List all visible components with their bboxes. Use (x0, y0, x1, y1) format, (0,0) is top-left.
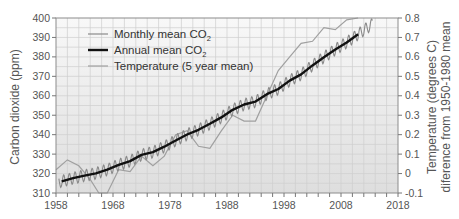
y-axis-title-right-line2: diference from 1950-1980 mean (439, 22, 453, 193)
x-tick-label: 1998 (272, 199, 296, 211)
y-tick-label-left: 310 (32, 187, 50, 199)
y-tick-label-right: 0 (405, 167, 411, 179)
y-tick-label-right: 0.4 (405, 89, 420, 101)
x-tick-label: 2018 (386, 199, 410, 211)
y-tick-label-right: 0.5 (405, 70, 420, 82)
y-axis-title-right-line1: Temperature (degrees C) (425, 40, 439, 174)
x-tick-label: 1968 (101, 199, 125, 211)
y-tick-label-left: 400 (32, 12, 50, 24)
y-tick-label-right: 0.6 (405, 50, 420, 62)
y-tick-label-right: 0.1 (405, 148, 420, 160)
legend-label: Temperature (5 year mean) (114, 60, 254, 72)
y-tick-label-right: 0.7 (405, 31, 420, 43)
y-tick-label-right: -0.1 (405, 187, 423, 199)
y-tick-label-left: 330 (32, 148, 50, 160)
y-tick-label-left: 380 (32, 50, 50, 62)
co2-temperature-chart: 1958196819781988199820082018310320330340… (0, 0, 459, 219)
y-tick-label-left: 320 (32, 167, 50, 179)
y-tick-label-right: 0.2 (405, 128, 420, 140)
y-tick-label-left: 390 (32, 31, 50, 43)
y-axis-title-left: Carbon dioxide (ppm) (8, 49, 22, 164)
y-tick-label-left: 340 (32, 128, 50, 140)
y-tick-label-right: 0.8 (405, 12, 420, 24)
x-tick-label: 2008 (329, 199, 353, 211)
x-tick-label: 1958 (44, 199, 68, 211)
x-tick-label: 1988 (215, 199, 239, 211)
y-tick-label-left: 360 (32, 89, 50, 101)
x-tick-label: 1978 (158, 199, 182, 211)
y-tick-label-left: 350 (32, 109, 50, 121)
y-tick-label-left: 370 (32, 70, 50, 82)
y-tick-label-right: 0.3 (405, 109, 420, 121)
